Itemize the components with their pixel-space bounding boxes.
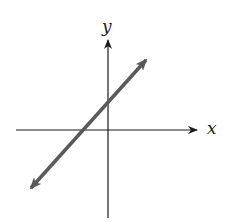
y-axis-label: y [102,18,112,35]
x-axis-label: x [207,120,217,137]
plotted-line [31,60,146,188]
coordinate-plane [0,0,225,223]
